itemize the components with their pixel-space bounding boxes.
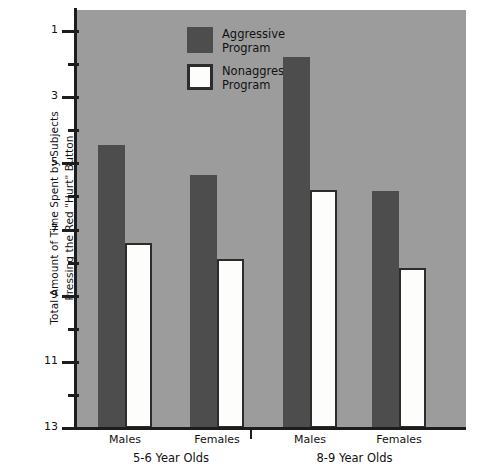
- y-tick-label-13: 1: [34, 24, 58, 36]
- y-tick-major-1: [62, 427, 79, 430]
- legend-label-aggressive-line-1: Aggressive: [222, 27, 285, 41]
- y-axis-line: [74, 8, 77, 430]
- legend-swatch-aggressive-icon: [187, 27, 213, 53]
- y-tick-major-9: [62, 162, 79, 165]
- legend-swatch-nonaggressive-icon: [187, 64, 213, 90]
- y-tick-label-11: 3: [34, 90, 58, 102]
- legend-item-aggressive: Aggressive Program: [187, 27, 307, 55]
- x-axis-sublabel-3: Females: [359, 434, 439, 446]
- y-tick-minor-6: [68, 262, 79, 265]
- y-tick-major-13: [62, 30, 79, 33]
- bar-chart: Total Amount of Time Spent by Subjects P…: [0, 0, 479, 471]
- x-axis-sublabel-2: Males: [270, 434, 350, 446]
- bar-8-9-year-olds-females-aggressive: [372, 191, 399, 428]
- plot-area: Aggressive Program Nonaggressive Program: [77, 10, 466, 429]
- bar-8-9-year-olds-males-nonaggressive: [310, 190, 337, 428]
- x-axis-group-label-0: 5-6 Year Olds: [101, 452, 241, 465]
- y-tick-minor-2: [68, 394, 79, 397]
- y-tick-minor-12: [68, 63, 79, 66]
- y-tick-major-11: [62, 96, 79, 99]
- y-tick-label-text: 5: [36, 156, 58, 167]
- y-tick-major-7: [62, 229, 79, 232]
- y-tick-label-text: 9: [36, 289, 58, 300]
- y-tick-label-text: 1: [36, 24, 58, 35]
- y-tick-label-text: 7: [36, 223, 58, 234]
- y-tick-label-5: 9: [34, 289, 58, 301]
- bar-8-9-year-olds-females-nonaggressive: [399, 268, 426, 428]
- y-tick-label-text: 3: [36, 90, 58, 101]
- x-axis-line: [74, 427, 466, 430]
- y-tick-major-5: [62, 295, 79, 298]
- y-tick-label-text: 13: [36, 421, 58, 432]
- x-axis-group-label-1: 8-9 Year Olds: [285, 452, 425, 465]
- y-tick-minor-8: [68, 195, 79, 198]
- bar-5-6-year-olds-males-nonaggressive: [125, 243, 152, 428]
- y-tick-label-9: 5: [34, 156, 58, 168]
- y-tick-major-3: [62, 361, 79, 364]
- y-tick-minor-10: [68, 129, 79, 132]
- legend-label-aggressive-line-2: Program: [222, 41, 285, 55]
- y-tick-minor-4: [68, 328, 79, 331]
- y-tick-label-7: 7: [34, 223, 58, 235]
- bar-5-6-year-olds-females-aggressive: [190, 175, 217, 428]
- x-axis-sublabel-0: Males: [85, 434, 165, 446]
- y-tick-label-1: 13: [34, 421, 58, 433]
- x-axis-group-separator-0: [250, 430, 252, 439]
- legend-label-aggressive: Aggressive Program: [222, 27, 285, 55]
- bar-5-6-year-olds-females-nonaggressive: [217, 259, 244, 428]
- bar-5-6-year-olds-males-aggressive: [98, 145, 125, 428]
- y-tick-label-3: 11: [34, 355, 58, 367]
- bar-8-9-year-olds-males-aggressive: [283, 57, 310, 428]
- y-tick-label-text: 11: [36, 355, 58, 366]
- x-axis-sublabel-1: Females: [177, 434, 257, 446]
